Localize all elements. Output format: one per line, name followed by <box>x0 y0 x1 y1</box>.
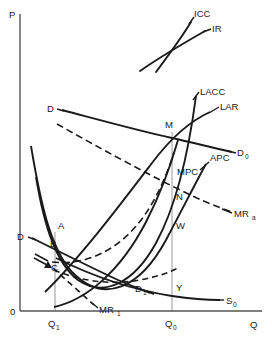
leader-apc <box>200 162 209 170</box>
curve-label-d0: D 0 <box>237 147 249 160</box>
curve-label-mra: MR a <box>234 208 256 221</box>
curve-d0 <box>62 110 232 152</box>
leader-mr1 <box>92 303 98 308</box>
economics-diagram: P Q 0 Q 1 Q 0 ICC IR LACC LAR D D D 0 D … <box>0 0 272 341</box>
tick-q1-sub: 1 <box>56 324 60 331</box>
tick-q0-sub: 0 <box>173 324 177 331</box>
curve-label-d1-sub: 1 <box>143 289 147 296</box>
curve-label-d0-sub: 0 <box>245 153 249 160</box>
curve-mpc-dashed <box>52 152 174 263</box>
curve-label-ir: IR <box>212 23 222 34</box>
tick-q1-base: Q <box>48 318 55 329</box>
curve-label-lar: LAR <box>220 101 239 112</box>
diagram-canvas: P Q 0 Q 1 Q 0 ICC IR LACC LAR D D D 0 D … <box>0 0 272 341</box>
curve-label-mr1-sub: 1 <box>117 310 121 317</box>
curve-ir <box>140 31 205 71</box>
tick-q0-base: Q <box>165 318 172 329</box>
curve-label-mpc: MPC <box>177 166 198 177</box>
leader-lar <box>209 107 219 113</box>
point-label-w: W <box>176 220 185 231</box>
curve-label-d-upper: D <box>47 103 54 114</box>
tick-label-q1: Q 1 <box>48 318 60 331</box>
point-label-y: Y <box>176 282 183 293</box>
point-label-n: N <box>176 191 183 202</box>
curve-label-icc: ICC <box>194 8 211 19</box>
curve-label-s0-sub: 0 <box>233 301 237 308</box>
curve-label-s0: S 0 <box>226 295 237 308</box>
x-axis-label: Q <box>250 319 257 330</box>
arrow-to-c <box>34 254 52 268</box>
curve-label-mra-base: MR <box>234 208 249 219</box>
curve-label-lacc: LACC <box>200 86 225 97</box>
curve-label-mr1: MR 1 <box>99 304 121 317</box>
curve-label-apc: APC <box>210 152 230 163</box>
curve-label-mra-sub: a <box>252 214 256 221</box>
y-axis-label: P <box>9 9 15 20</box>
tick-label-q0: Q 0 <box>165 318 177 331</box>
point-label-c: C <box>51 262 58 273</box>
point-label-b: B <box>50 238 56 249</box>
curve-label-mr1-base: MR <box>99 304 114 315</box>
curve-label-d-left: D <box>17 231 24 242</box>
curve-label-s0-base: S <box>226 295 232 306</box>
curve-mra <box>57 124 232 212</box>
curve-label-d0-base: D <box>237 147 244 158</box>
curve-label-d1-base: D <box>135 283 142 294</box>
curve-icc <box>156 22 191 72</box>
point-label-a: A <box>58 220 65 231</box>
point-label-m: M <box>165 119 173 130</box>
origin-label: 0 <box>10 306 15 317</box>
curve-label-d1: D 1 <box>135 283 147 296</box>
